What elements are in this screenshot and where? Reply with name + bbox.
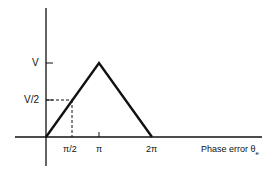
x-tick-pi-half: π/2 (63, 144, 77, 154)
x-tick-2pi: 2π (146, 144, 157, 154)
x-axis-label-text: Phase error θ (201, 144, 256, 154)
x-axis-label: Phase error θe (201, 144, 259, 158)
y-tick-v: V (32, 58, 39, 68)
x-tick-pi: π (96, 144, 102, 154)
y-tick-v-half: V/2 (24, 95, 39, 105)
x-axis-label-subscript: e (256, 150, 259, 156)
